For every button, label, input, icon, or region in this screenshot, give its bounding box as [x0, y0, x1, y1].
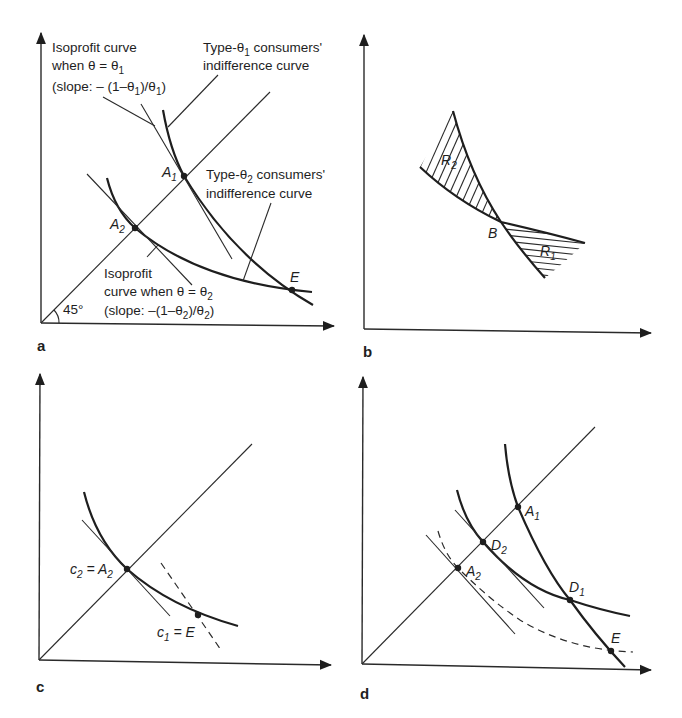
point-A1	[181, 173, 187, 179]
isoprofit-theta2-line2: curve when θ = θ2	[104, 284, 213, 302]
panel-a: 45° A1 A2 E Isoprofit curve when θ = θ1 …	[37, 33, 334, 354]
leader-type1	[168, 75, 218, 127]
isoprofit-theta1-line2: when θ = θ1	[51, 58, 124, 76]
panel-label-d: d	[360, 685, 369, 702]
leader-isoprofit-theta2	[147, 245, 158, 257]
label-E: E	[290, 269, 300, 285]
isoprofit-theta1-line3: (slope: – (1–θ1)/θ1)	[52, 79, 166, 97]
x-axis	[39, 660, 331, 665]
y-axis	[39, 374, 40, 660]
panel-b: R2 R1 B b	[363, 35, 651, 360]
45-degree-line	[39, 444, 252, 660]
point-D1	[567, 597, 573, 603]
leader-type2	[243, 203, 271, 281]
point-D2	[480, 539, 486, 545]
isoprofit-theta2-line3: (slope: –(1–θ2)/θ2)	[104, 303, 214, 321]
point-E	[608, 648, 614, 654]
type1-label-line1: Type-θ1 consumers'	[203, 40, 322, 58]
steep-curve	[505, 444, 625, 667]
panel-label-a: a	[37, 337, 46, 354]
isoprofit-theta2-line1: Isoprofit	[104, 266, 152, 281]
D2-D1-curve	[457, 490, 630, 616]
x-axis	[364, 329, 651, 333]
panel-c: c2 = A2 c1 = E c	[36, 374, 331, 695]
type2-label-line2: indifference curve	[206, 186, 312, 201]
type1-label-line2: indifference curve	[203, 58, 309, 73]
angle-label: 45°	[63, 302, 83, 317]
label-A1: A1	[524, 503, 540, 522]
x-axis	[362, 664, 651, 670]
panel-d: A1 D2 A2 D1 E d	[360, 377, 651, 702]
label-c2-A2: c2 = A2	[70, 561, 113, 580]
45-degree-line	[362, 427, 595, 664]
isoprofit-theta1-line1: Isoprofit curve	[52, 40, 137, 55]
label-c1-E: c1 = E	[157, 624, 196, 643]
label-A1: A1	[161, 164, 177, 183]
point-A1	[515, 504, 521, 510]
point-E	[289, 287, 295, 293]
label-D1: D1	[569, 579, 585, 598]
dashed-curve	[438, 531, 633, 652]
label-A2: A2	[109, 216, 125, 235]
flat-curve	[420, 167, 585, 243]
label-R2: R2	[441, 152, 457, 171]
panel-label-c: c	[36, 678, 44, 695]
figure-canvas: 45° A1 A2 E Isoprofit curve when θ = θ1 …	[0, 0, 682, 718]
point-A2	[455, 565, 461, 571]
label-E: E	[611, 630, 621, 646]
leader-isoprofit-theta1	[103, 97, 155, 126]
x-axis	[41, 323, 334, 326]
angle-arc	[54, 310, 59, 323]
y-axis	[362, 377, 363, 664]
label-A2: A2	[465, 563, 481, 582]
steep-curve	[453, 111, 545, 278]
label-B: B	[488, 225, 497, 241]
type2-label-line1: Type-θ2 consumers'	[206, 167, 325, 185]
point-A2	[132, 225, 138, 231]
point-E	[195, 612, 201, 618]
panel-label-b: b	[363, 343, 372, 360]
point-A2	[124, 566, 130, 572]
